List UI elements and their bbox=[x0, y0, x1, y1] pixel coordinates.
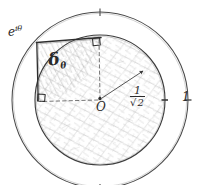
label-e-exponent: iθ bbox=[15, 24, 22, 33]
label-delta-base: δ bbox=[47, 48, 61, 69]
label-e-i-theta: eiθ bbox=[8, 25, 22, 38]
label-inner-radius-numerator: 1 bbox=[130, 85, 145, 96]
label-origin: O bbox=[96, 101, 106, 113]
geometry-figure: eiθ δθ O 1 √2 1 bbox=[0, 0, 197, 185]
sqrt-radicand: 2 bbox=[136, 96, 144, 108]
label-inner-radius: 1 √2 bbox=[130, 85, 145, 108]
label-inner-radius-denominator: √2 bbox=[130, 98, 145, 108]
label-outer-radius: 1 bbox=[182, 91, 190, 103]
figure-canvas bbox=[0, 0, 197, 185]
label-delta-subscript: θ bbox=[60, 60, 67, 71]
label-delta-theta: δθ bbox=[47, 50, 67, 73]
